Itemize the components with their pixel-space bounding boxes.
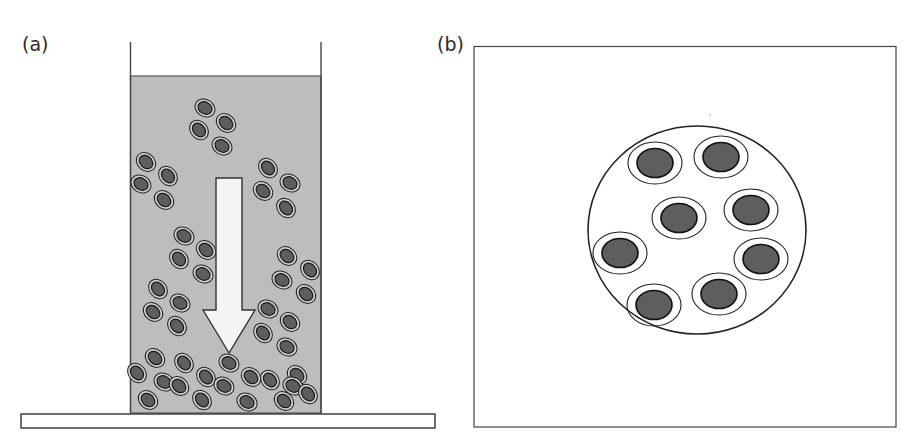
- dot: [709, 114, 711, 116]
- top-view-panel: [474, 47, 896, 428]
- diagram-canvas: [0, 0, 910, 444]
- sedimentation-panel: [21, 42, 435, 428]
- panel-b-frame: [474, 47, 896, 428]
- base-plate: [21, 414, 435, 428]
